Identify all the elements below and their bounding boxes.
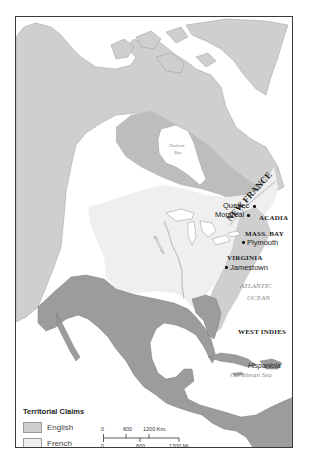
scale-mi-1200: 1200 Mi. — [169, 443, 190, 448]
west-indies-label: WEST INDIES — [238, 329, 286, 336]
legend-label-french: French — [47, 439, 72, 448]
map-frame: Hudson Bay Mississippi NEW FRANCE Quebec… — [15, 16, 293, 448]
atlantic-label-2: OCEAN — [247, 295, 270, 302]
scale-km-600: 600 — [123, 426, 132, 432]
jamestown-label: Jamestown — [230, 264, 268, 272]
quebec-dot — [253, 205, 256, 208]
mass-bay-label: MASS. BAY — [245, 231, 284, 238]
acadia-label: ACADIA — [259, 215, 288, 222]
atlantic-label-1: ATLANTIC — [240, 283, 272, 290]
french-swatch — [23, 438, 42, 449]
scale-bar: 0 600 1200 Km. 0 600 1200 Mi. — [103, 426, 203, 448]
hudson-bay-label-2: Bay — [174, 150, 182, 155]
legend-title: Territorial Claims — [23, 407, 173, 416]
virginia-label: VIRGINIA — [227, 255, 262, 262]
baja-california — [56, 313, 80, 361]
montreal-label: Montreal — [215, 211, 244, 219]
legend-label-english: English — [47, 423, 73, 432]
scale-mi-600: 600 — [136, 443, 145, 448]
jamestown-dot — [225, 266, 228, 269]
caribbean-sea-label: Caribbean Sea — [230, 372, 272, 379]
quebec-label: Quebec — [223, 202, 249, 210]
scale-km-1200: 1200 Km. — [143, 426, 167, 432]
scale-bar-line — [103, 433, 181, 443]
plymouth-dot — [242, 241, 245, 244]
montreal-dot — [247, 214, 250, 217]
plymouth-label: Plymouth — [247, 239, 278, 247]
english-swatch — [23, 422, 42, 433]
hudson-bay-label-1: Hudson — [169, 143, 185, 148]
scale-mi-0: 0 — [101, 443, 104, 448]
scale-km-0: 0 — [101, 426, 104, 432]
hispaniola-label: Hispaniola — [248, 362, 281, 369]
